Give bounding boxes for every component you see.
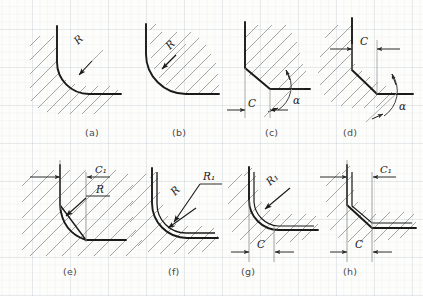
panel-h: C₁ C bbox=[320, 160, 416, 262]
panel-a: R bbox=[30, 26, 121, 114]
panel-a-radius-leader bbox=[79, 61, 92, 75]
panel-d: C α bbox=[318, 18, 413, 122]
panel-d-contour bbox=[352, 18, 413, 94]
panel-a-contour bbox=[57, 26, 121, 94]
panel-f-label-R: R bbox=[167, 183, 182, 198]
drawing-sheet: R R bbox=[0, 0, 423, 296]
caption-panel-f: (f) bbox=[168, 266, 179, 277]
panel-f: R R₁ bbox=[130, 168, 222, 254]
panel-c-angle-leg bbox=[264, 89, 292, 117]
drawing-canvas: R R bbox=[0, 0, 423, 296]
panel-b: R bbox=[146, 24, 219, 95]
panel-c-label-C: C bbox=[248, 97, 256, 109]
caption-panel-e: (e) bbox=[63, 266, 77, 277]
panel-e-hatching bbox=[22, 170, 142, 256]
panel-a-label-R: R bbox=[70, 32, 85, 47]
panel-g-label-R1: R₁ bbox=[263, 170, 281, 188]
panel-e: C₁ R bbox=[22, 160, 142, 256]
panel-b-label-R: R bbox=[162, 37, 177, 52]
panel-c: C α bbox=[227, 22, 310, 118]
caption-panel-h: (h) bbox=[343, 266, 357, 277]
panel-d-label-alpha: α bbox=[399, 100, 406, 112]
panel-h-label-C: C bbox=[355, 238, 363, 250]
panel-e-label-R: R bbox=[95, 183, 104, 195]
panel-d-hatching bbox=[318, 25, 392, 108]
panel-c-label-alpha: α bbox=[293, 94, 300, 106]
panel-g-label-C: C bbox=[257, 238, 265, 250]
panel-c-hatching bbox=[245, 25, 306, 88]
panel-d-label-C: C bbox=[360, 35, 368, 47]
caption-panel-b: (b) bbox=[172, 127, 186, 138]
panel-g: R₁ C bbox=[228, 167, 318, 262]
panel-b-radius-leader bbox=[162, 55, 176, 69]
panel-c-contour bbox=[245, 22, 310, 89]
panel-g-radius1-leader bbox=[265, 188, 290, 209]
caption-panel-c: (c) bbox=[265, 127, 278, 138]
panel-c-angle-arc bbox=[278, 70, 291, 110]
panel-e-label-C1: C₁ bbox=[95, 164, 107, 175]
panel-h-label-C1: C₁ bbox=[380, 164, 392, 175]
caption-panel-d: (d) bbox=[343, 127, 357, 138]
caption-panel-g: (g) bbox=[241, 266, 255, 277]
caption-panel-a: (a) bbox=[85, 127, 99, 138]
panel-a-hatching bbox=[30, 36, 118, 114]
panel-f-label-R1: R₁ bbox=[202, 170, 215, 182]
panel-e-radius-leader bbox=[66, 198, 86, 216]
panel-g-contour-inner bbox=[254, 172, 314, 226]
